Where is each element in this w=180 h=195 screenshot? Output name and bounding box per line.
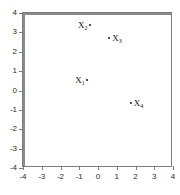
- y-origin-axis: [23, 13, 25, 166]
- x-tick-label: 3: [152, 173, 156, 181]
- data-point-label: X1: [75, 75, 85, 84]
- y-tick-mark: [19, 71, 23, 72]
- data-point: [89, 24, 91, 26]
- y-tick-mark: [19, 32, 23, 33]
- x-tick-mark: [117, 166, 118, 170]
- x-tick-mark: [42, 166, 43, 170]
- y-tick-mark: [19, 91, 23, 92]
- x-tick-label: 1: [115, 173, 119, 181]
- point-label-text: X: [112, 33, 119, 43]
- x-tick-mark: [61, 166, 62, 170]
- x-tick-mark: [173, 166, 174, 170]
- x-tick-label: -1: [76, 173, 83, 181]
- y-tick-mark: [19, 149, 23, 150]
- x-tick-label: 0: [96, 173, 100, 181]
- x-tick-label: 2: [133, 173, 137, 181]
- y-tick-label: -1: [10, 106, 17, 114]
- x-tick-label: -2: [57, 173, 64, 181]
- x-tick-mark: [98, 166, 99, 170]
- y-tick-label: -2: [10, 125, 17, 133]
- x-tick-mark: [136, 166, 137, 170]
- point-label-text: X: [134, 98, 141, 108]
- point-label-subscript: 1: [82, 79, 85, 85]
- y-tick-label: 3: [13, 28, 17, 36]
- point-label-text: X: [75, 74, 82, 84]
- x-tick-label: 4: [171, 173, 175, 181]
- y-tick-mark: [19, 110, 23, 111]
- y-tick-mark: [19, 52, 23, 53]
- point-label-subscript: 3: [119, 38, 122, 44]
- plot-area: 43210-1-2-3-4 -4-3-2-101234 X1X2X3X4: [22, 12, 172, 167]
- data-point: [108, 37, 110, 39]
- y-tick-label: 2: [13, 48, 17, 56]
- point-label-subscript: 2: [85, 24, 88, 30]
- y-tick-label: -3: [10, 145, 17, 153]
- y-tick-label: -4: [10, 164, 17, 172]
- x-tick-label: -3: [38, 173, 45, 181]
- data-point: [86, 79, 88, 81]
- x-origin-axis: [23, 13, 171, 15]
- x-tick-label: -4: [19, 173, 26, 181]
- y-tick-label: 1: [13, 67, 17, 75]
- y-tick-mark: [19, 129, 23, 130]
- point-label-subscript: 4: [140, 103, 143, 109]
- x-tick-mark: [154, 166, 155, 170]
- data-point: [130, 102, 132, 104]
- data-point-label: X2: [78, 20, 88, 29]
- y-tick-label: 0: [13, 87, 17, 95]
- y-tick-label: 4: [13, 9, 17, 17]
- x-tick-mark: [23, 166, 24, 170]
- scatter-chart: 43210-1-2-3-4 -4-3-2-101234 X1X2X3X4: [0, 0, 180, 195]
- data-point-label: X4: [134, 99, 144, 108]
- data-point-label: X3: [112, 34, 122, 43]
- point-label-text: X: [78, 19, 85, 29]
- x-tick-mark: [79, 166, 80, 170]
- y-tick-mark: [19, 13, 23, 14]
